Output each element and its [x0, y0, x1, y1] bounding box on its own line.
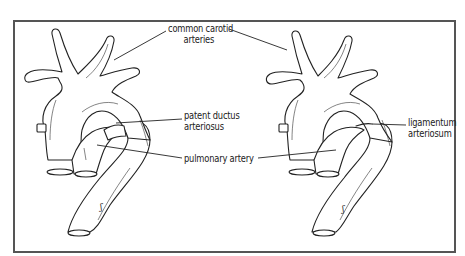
right-artist-mark: ʃ [341, 204, 345, 214]
leader-carotid-right [229, 29, 287, 50]
label-pulmonary-artery: pulmonary artery [184, 153, 254, 164]
right-heart-vessels [266, 31, 392, 236]
left-artist-mark: ʃ [99, 202, 103, 212]
leader-carotid-left [114, 31, 166, 60]
left-ductus [104, 125, 126, 140]
right-stub [279, 124, 288, 132]
label-ligamentum-line2: arteriosum [408, 128, 456, 139]
label-common-carotid: common carotid arteries [168, 23, 230, 45]
left-heart-vessels [25, 29, 150, 236]
left-stub [37, 124, 46, 132]
label-common-carotid-line2: arteries [168, 34, 230, 45]
label-patent-ductus-line2: arteriosus [184, 121, 240, 132]
label-ligamentum-arteriosum: ligamentum arteriosum [408, 117, 456, 139]
label-patent-ductus: patent ductus arteriosus [184, 110, 240, 132]
